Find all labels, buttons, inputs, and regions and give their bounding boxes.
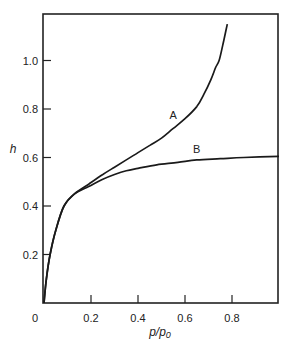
curves	[44, 24, 279, 303]
x-axis-label-sub: 0	[166, 330, 171, 340]
origin-label: 0	[32, 312, 38, 324]
ticks: 0.20.40.60.80.20.40.60.81.0	[23, 55, 240, 325]
curve-a	[44, 24, 227, 303]
y-tick-label: 0.6	[23, 152, 38, 164]
y-axis-label: h	[10, 142, 17, 156]
y-tick-label: 0.8	[23, 103, 38, 115]
curve-label-a: A	[170, 109, 178, 121]
x-tick-label: 0.6	[177, 312, 192, 324]
x-tick-label: 0.8	[224, 312, 239, 324]
chart: 0.20.40.60.80.20.40.60.81.0 AB 0 p/p0 h	[0, 0, 290, 341]
x-axis-label: p/p0	[148, 325, 171, 340]
curve-label-b: B	[193, 143, 200, 155]
x-tick-label: 0.2	[83, 312, 98, 324]
labels: AB	[170, 109, 201, 155]
y-tick-label: 1.0	[23, 55, 38, 67]
x-axis-label-p: p/p	[148, 325, 166, 339]
y-tick-label: 0.2	[23, 249, 38, 261]
curve-b	[44, 156, 279, 303]
x-tick-label: 0.4	[130, 312, 145, 324]
y-tick-label: 0.4	[23, 200, 38, 212]
plot-frame	[43, 14, 278, 303]
